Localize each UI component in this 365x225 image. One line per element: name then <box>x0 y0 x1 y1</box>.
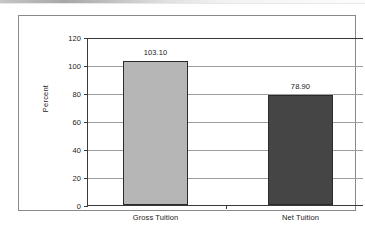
y-axis-title: Percent <box>41 69 50 129</box>
bar-value-gross-tuition: 103.10 <box>144 48 168 57</box>
ytick-mark-40 <box>84 150 88 151</box>
plot-area: 120 100 80 60 40 20 0 103.10 Gross Tuiti… <box>87 38 363 206</box>
xtick-label-net-tuition: Net Tuition <box>282 213 319 222</box>
chart-frame: Percent 120 100 80 60 40 20 0 103.10 Gro… <box>18 15 356 211</box>
ytick-label-80: 80 <box>72 90 81 99</box>
bar-net-tuition[interactable]: 78.90 Net Tuition <box>268 95 333 206</box>
ytick-label-40: 40 <box>72 146 81 155</box>
ytick-label-20: 20 <box>72 174 81 183</box>
ytick-mark-80 <box>84 94 88 95</box>
scan-artifact-line <box>0 3 365 4</box>
ytick-label-60: 60 <box>72 118 81 127</box>
ytick-mark-60 <box>84 122 88 123</box>
gridline-120 <box>88 38 363 39</box>
bar-gross-tuition[interactable]: 103.10 Gross Tuition <box>123 61 188 205</box>
bar-value-net-tuition: 78.90 <box>291 82 310 91</box>
ytick-label-120: 120 <box>68 34 81 43</box>
xtick-mark-center <box>226 205 227 209</box>
ytick-mark-120 <box>84 38 88 39</box>
ytick-mark-100 <box>84 66 88 67</box>
xtick-label-gross-tuition: Gross Tuition <box>133 213 178 222</box>
ytick-label-0: 0 <box>77 202 81 211</box>
ytick-mark-20 <box>84 178 88 179</box>
ytick-label-100: 100 <box>68 62 81 71</box>
ytick-mark-0 <box>84 206 88 207</box>
